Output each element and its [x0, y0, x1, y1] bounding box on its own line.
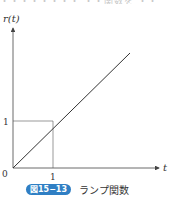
- figure-number-badge: 図15−13: [26, 184, 71, 195]
- figure-caption: 図15−13 ランプ関数: [26, 182, 129, 196]
- ramp-function-chart: r(t) t 1 0 1: [0, 0, 170, 198]
- ramp-line: [13, 53, 130, 168]
- y-axis-label: r(t): [3, 13, 20, 24]
- origin-label: 0: [2, 169, 8, 179]
- x-tick-1: 1: [50, 172, 56, 182]
- x-axis-label: t: [163, 162, 168, 173]
- figure-title: ランプ関数: [79, 182, 129, 197]
- y-tick-1: 1: [3, 117, 9, 127]
